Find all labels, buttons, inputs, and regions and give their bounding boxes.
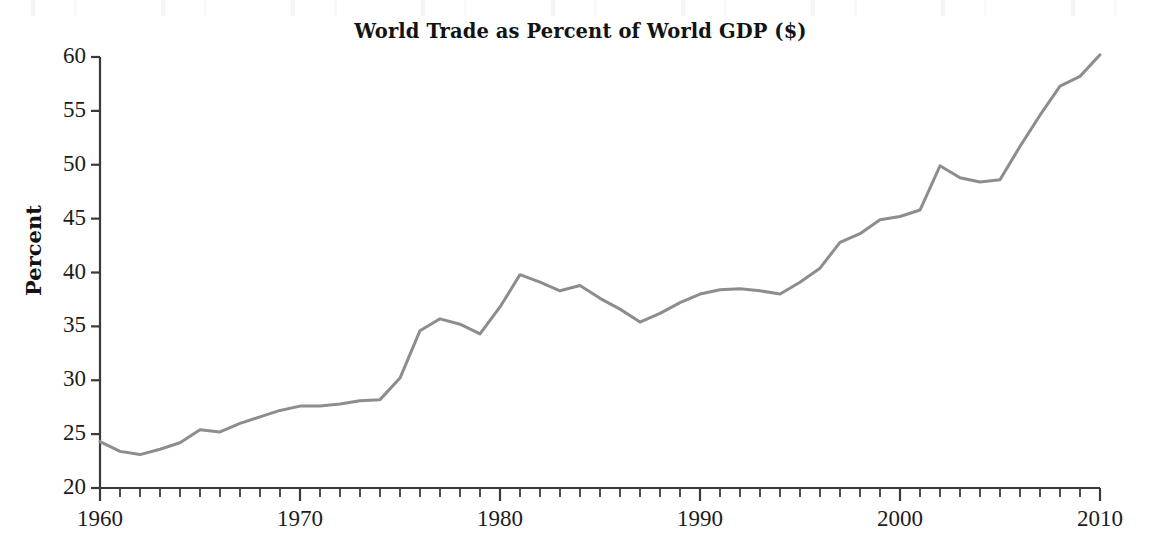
- data-series-group: [100, 55, 1100, 455]
- axes: [91, 57, 1100, 501]
- chart-figure: World Trade as Percent of World GDP ($) …: [0, 0, 1161, 548]
- data-line-0: [100, 55, 1100, 455]
- plot-area: [0, 0, 1161, 548]
